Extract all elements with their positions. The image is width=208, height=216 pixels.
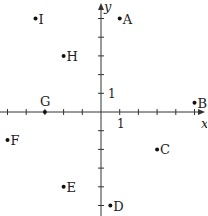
point-dot-icon: [118, 17, 122, 21]
x-unit-label: 1: [117, 117, 125, 131]
point-a: A: [118, 12, 133, 27]
point-dot-icon: [155, 147, 159, 151]
point-dot-icon: [6, 138, 10, 142]
point-label: D: [113, 199, 123, 214]
point-dot-icon: [108, 204, 112, 208]
y-axis: [98, 3, 104, 216]
y-axis-label: y: [103, 0, 112, 14]
point-label: G: [40, 94, 50, 109]
x-axis-label: x: [201, 116, 207, 131]
point-e: E: [62, 180, 77, 195]
point-label: B: [198, 96, 208, 111]
point-label: H: [67, 49, 78, 64]
point-h: H: [62, 49, 78, 64]
point-g: G: [40, 94, 50, 114]
point-label: A: [122, 12, 133, 27]
point-label: F: [11, 133, 20, 148]
point-dot-icon: [193, 101, 197, 105]
point-label: E: [67, 180, 77, 195]
point-dot-icon: [34, 17, 38, 21]
y-unit-label: 1: [108, 87, 116, 101]
point-dot-icon: [62, 54, 66, 58]
point-b: B: [193, 96, 208, 111]
point-c: C: [155, 142, 170, 157]
point-f: F: [6, 133, 20, 148]
point-label: C: [160, 142, 170, 157]
coordinate-plane: x y 1 1 ABCDEFGHI: [0, 0, 207, 216]
point-i: I: [34, 12, 44, 27]
point-d: D: [108, 199, 123, 214]
x-axis: [0, 109, 205, 115]
point-dot-icon: [43, 110, 47, 114]
point-label: I: [39, 12, 44, 27]
point-dot-icon: [62, 185, 66, 189]
